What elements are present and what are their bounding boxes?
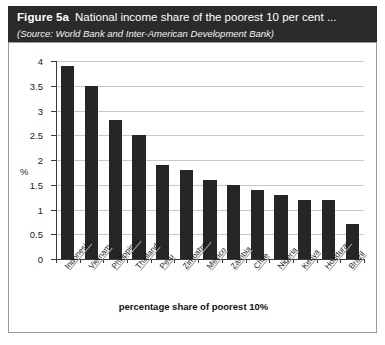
x-axis-title: percentage share of poorest 10% <box>9 301 378 312</box>
chart-panel: % 00.511.522.533.54 IndonesiaVietnamPhil… <box>8 42 377 333</box>
x-axis-tick <box>269 259 270 263</box>
y-axis-tick-label: 3 <box>38 105 43 116</box>
bar <box>85 86 98 259</box>
figure-title-text: National income share of the poorest 10 … <box>75 11 336 23</box>
bars-group <box>56 61 364 259</box>
bar <box>227 185 240 259</box>
x-axis-tick <box>317 259 318 263</box>
y-axis-tick-label: 3.5 <box>30 80 43 91</box>
x-axis-tick <box>340 259 341 263</box>
x-axis-tick <box>246 259 247 263</box>
figure-source-text: (Source: World Bank and Inter-American D… <box>17 27 369 40</box>
x-axis-tick <box>198 259 199 263</box>
bar <box>251 190 264 259</box>
x-axis-tick <box>151 259 152 263</box>
y-axis-tick-label: 4 <box>38 56 43 67</box>
y-axis-tick-label: 0.5 <box>30 229 43 240</box>
y-axis-tick-label: 1.5 <box>30 179 43 190</box>
x-axis-tick <box>364 259 365 263</box>
bar <box>322 200 335 259</box>
bar <box>274 195 287 259</box>
figure-container: Figure 5aNational income share of the po… <box>0 0 385 345</box>
x-axis-tick <box>56 259 57 263</box>
bar <box>180 170 193 259</box>
x-axis-tick <box>80 259 81 263</box>
y-axis-tick-label: 0 <box>38 254 43 265</box>
y-axis-tick-label: 2 <box>38 155 43 166</box>
figure-number-label: Figure 5a <box>17 11 69 23</box>
figure-header: Figure 5aNational income share of the po… <box>8 6 377 42</box>
x-axis-tick <box>293 259 294 263</box>
bar <box>298 200 311 259</box>
x-axis-tick <box>174 259 175 263</box>
x-axis-tick <box>103 259 104 263</box>
plot-area: 00.511.522.533.54 IndonesiaVietnamPhilip… <box>56 61 364 259</box>
bar <box>109 120 122 259</box>
x-axis-tick <box>222 259 223 263</box>
y-axis-title: % <box>20 166 28 177</box>
y-axis-tick-label: 1 <box>38 204 43 215</box>
y-axis-tick-label: 2.5 <box>30 130 43 141</box>
figure-header-title-line: Figure 5aNational income share of the po… <box>17 10 369 25</box>
x-axis-tick <box>127 259 128 263</box>
bar <box>61 66 74 259</box>
